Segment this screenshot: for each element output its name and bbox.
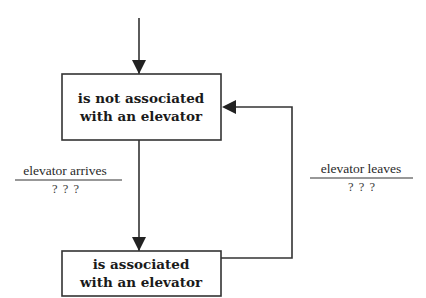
state-label-line1: is not associated xyxy=(78,90,205,106)
arrowhead-icon xyxy=(222,100,236,114)
arrowhead-icon xyxy=(132,60,146,74)
state-label-line1: is associated xyxy=(93,256,190,272)
event-label: elevator leaves xyxy=(321,161,402,176)
state-label-line2: with an elevator xyxy=(79,108,203,124)
event-label: elevator arrives xyxy=(23,163,107,178)
state-box xyxy=(62,74,221,140)
guard-label: ? ? ? xyxy=(52,182,80,196)
state-associated: is associated with an elevator xyxy=(62,251,221,296)
guard-label: ? ? ? xyxy=(348,180,376,194)
arrowhead-icon xyxy=(132,237,146,251)
state-label-line2: with an elevator xyxy=(79,274,203,290)
state-not-associated: is not associated with an elevator xyxy=(62,74,221,140)
transition-elevator-leaves: elevator leaves ? ? ? xyxy=(221,100,413,258)
transition-elevator-arrives: elevator arrives ? ? ? xyxy=(15,140,146,251)
loop-line xyxy=(221,107,292,258)
initial-transition-arrow xyxy=(132,18,146,74)
state-diagram: is not associated with an elevator eleva… xyxy=(0,0,426,298)
